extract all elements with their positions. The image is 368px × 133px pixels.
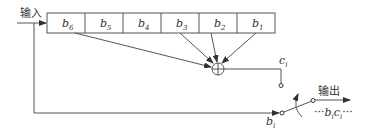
- register-cell-b2: b2: [214, 17, 226, 32]
- check-bit-terminal: [279, 84, 283, 88]
- switch-icon: [284, 94, 315, 117]
- shift-register: b6 b5 b4 b3 b2 b1: [47, 13, 275, 33]
- info-bit-label: bi: [266, 115, 275, 130]
- output-label: 输出: [318, 84, 340, 98]
- info-bit-line: [34, 23, 279, 113]
- output-sequence: ···bici···: [314, 106, 353, 121]
- input-label: 输入: [20, 6, 42, 20]
- encoder-diagram: 输入 b6 b5 b4 b3 b2 b1 ci bi: [0, 0, 368, 133]
- check-bit-line: [224, 69, 281, 83]
- register-cell-b5: b5: [100, 17, 112, 32]
- xor-node-icon: [212, 63, 224, 75]
- register-cell-b4: b4: [138, 17, 150, 32]
- info-bit-terminal: [280, 111, 284, 115]
- tap-lines: [75, 33, 256, 67]
- register-cell-b6: b6: [62, 17, 74, 32]
- register-cell-b1: b1: [252, 17, 264, 32]
- check-bit-label: ci: [279, 54, 287, 69]
- register-cell-b3: b3: [176, 17, 188, 32]
